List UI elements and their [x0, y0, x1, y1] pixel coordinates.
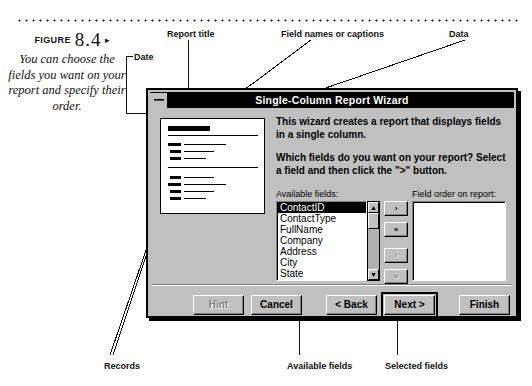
preview-rule-middle [168, 167, 258, 168]
preview-field-label [170, 150, 181, 153]
list-item[interactable]: ContactID [277, 202, 366, 213]
preview-field-label [170, 176, 181, 179]
selected-fields-listbox[interactable] [412, 201, 506, 281]
preview-field-value [184, 151, 214, 152]
preview-field-value [184, 177, 214, 178]
list-item[interactable]: FullName [277, 224, 366, 235]
figure-caption: You can choose the fields you want on yo… [6, 52, 128, 114]
move-left-button[interactable]: ‹ [384, 248, 408, 263]
scroll-up-icon[interactable]: ▲ [368, 202, 379, 213]
preview-field-value [184, 144, 226, 145]
figure-page: FIGURE8.4▸ You can choose the fields you… [0, 0, 532, 386]
preview-field-value [184, 198, 206, 199]
annotation-selected-fields: Selected fields [385, 361, 448, 371]
list-item[interactable]: City [277, 257, 366, 268]
scroll-down-icon[interactable]: ▼ [368, 269, 379, 280]
preview-field-label [170, 157, 181, 160]
list-item[interactable]: State [277, 268, 366, 279]
annotation-available-fields: Available fields [287, 361, 352, 371]
dialog-titlebar: Single-Column Report Wizard [150, 92, 514, 108]
finish-button[interactable]: Finish [459, 295, 510, 315]
move-right-button[interactable]: › [384, 201, 408, 216]
move-all-right-button[interactable]: » [384, 222, 408, 237]
wizard-instructions: This wizard creates a report that displa… [276, 116, 508, 188]
command-separator [152, 284, 512, 286]
system-menu-icon[interactable] [150, 93, 168, 108]
dialog-body: This wizard creates a report that displa… [148, 108, 516, 320]
preview-field-label [170, 190, 181, 193]
list-item[interactable]: ContactType [277, 213, 366, 224]
annotation-records: Records [104, 361, 140, 371]
cancel-button[interactable]: Cancel [251, 295, 302, 315]
annotation-report-title: Report title [167, 29, 215, 39]
annotation-data: Data [449, 29, 469, 39]
preview-field-label [168, 143, 181, 146]
wizard-paragraph-2: Which fields do you want on your report?… [276, 152, 508, 177]
preview-field-label [170, 197, 181, 200]
single-column-report-wizard-dialog: Single-Column Report Wizard [146, 88, 518, 318]
preview-report-title-bar [168, 126, 210, 131]
dotted-divider [16, 19, 521, 22]
figure-arrow-icon: ▸ [105, 35, 110, 45]
preview-field-value [184, 184, 226, 185]
preview-rule-top [168, 135, 258, 136]
back-button[interactable]: < Back [326, 295, 377, 315]
wizard-paragraph-1: This wizard creates a report that displa… [276, 116, 508, 141]
figure-label: FIGURE [34, 35, 70, 45]
list-item[interactable]: Address [277, 246, 366, 257]
move-all-left-button[interactable]: « [384, 269, 408, 284]
preview-field-label [168, 183, 181, 186]
dialog-button-row: Hint Cancel < Back Next > Finish [152, 294, 510, 316]
report-preview-thumbnail [160, 118, 265, 214]
available-fields-listbox[interactable]: ContactID ContactType FullName Company A… [276, 201, 367, 281]
scrollbar-thumb[interactable] [368, 213, 379, 229]
selected-fields-label: Field order on report: [412, 189, 496, 199]
hint-button[interactable]: Hint [193, 295, 244, 315]
annotation-field-names: Field names or captions [281, 29, 384, 39]
figure-heading: FIGURE8.4▸ [16, 29, 128, 51]
annotation-date: Date [134, 52, 154, 62]
available-fields-scrollbar[interactable]: ▲ ▼ [367, 201, 380, 281]
preview-field-value [184, 191, 214, 192]
next-button[interactable]: Next > [384, 295, 435, 315]
list-item[interactable]: Company [277, 235, 366, 246]
preview-field-value [184, 158, 206, 159]
available-fields-label: Available fields: [276, 189, 338, 199]
dialog-title: Single-Column Report Wizard [168, 94, 514, 106]
scrollbar-track[interactable] [368, 213, 379, 269]
figure-number: 8.4 [75, 29, 102, 50]
